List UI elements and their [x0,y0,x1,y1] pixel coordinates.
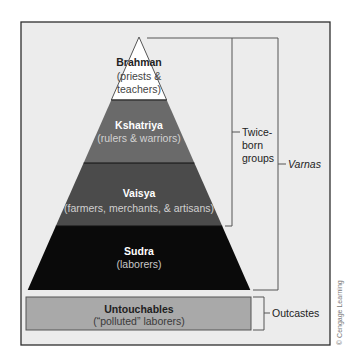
twice-born-label: groups [242,152,274,164]
tier-brahman-description: teachers) [117,83,161,95]
tier-brahman-title: Brahman [116,56,162,68]
outcaste-description: (“polluted” laborers) [93,315,185,327]
copyright-credit: © Cengage Learning [336,280,344,345]
twice-born-label: born [242,139,263,151]
tier-sudra-title: Sudra [124,245,154,257]
outcastes-label: Outcastes [272,307,319,319]
twice-born-label: Twice- [242,126,273,138]
tier-kshatriya-title: Kshatriya [115,119,163,131]
tier-vaisya-title: Vaisya [123,187,156,199]
tier-brahman-description: (priests & [117,70,161,82]
tier-sudra-description: (laborers) [117,258,162,270]
outcaste-title: Untouchables [104,303,174,315]
tier-vaisya-description: (farmers, merchants, & artisans) [64,202,214,214]
tier-kshatriya-description: (rulers & warriors) [97,132,180,144]
caste-pyramid-diagram: Brahman (priests & teachers) Kshatriya (… [0,0,352,362]
varnas-label: Varnas [288,158,322,170]
